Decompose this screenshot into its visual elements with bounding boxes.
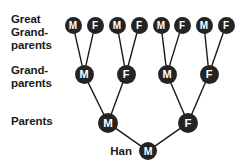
edge-gp2-to-p1 — [111, 82, 123, 114]
node-parents-1: M — [98, 113, 118, 133]
node-great-grandparents-2: F — [87, 17, 104, 34]
node-great-grandparents-3: M — [109, 17, 126, 34]
node-grandparents-2: F — [117, 65, 136, 84]
node-grandparents-3: M — [158, 65, 177, 84]
edge-gg8-to-gp4 — [212, 33, 223, 66]
node-parents-2: F — [178, 113, 198, 133]
node-grandparents-4: F — [200, 65, 219, 84]
edge-gg2-to-gp1 — [86, 33, 93, 65]
edge-gg7-to-gp4 — [205, 33, 208, 65]
node-great-grandparents-5: M — [153, 17, 170, 34]
node-great-grandparents-1: M — [65, 17, 82, 34]
node-great-grandparents-8: F — [218, 17, 235, 34]
node-great-grandparents-7: M — [196, 17, 213, 34]
node-grandparents-1: M — [75, 65, 94, 84]
row-label-great-grandparents: Great Grand- parents — [11, 13, 52, 53]
node-great-grandparents-6: F — [174, 17, 191, 34]
edge-p2-to-c1 — [155, 128, 180, 146]
edge-gg1-to-gp1 — [75, 33, 82, 65]
edge-gg3-to-gp2 — [118, 33, 124, 65]
edge-gp1-to-p1 — [88, 82, 104, 114]
edge-gp4-to-p2 — [192, 82, 206, 114]
edge-gg4-to-gp2 — [128, 33, 137, 66]
child-name-label: Han — [79, 142, 132, 160]
row-label-grandparents: Grand- parents — [11, 64, 52, 90]
node-great-grandparents-4: F — [131, 17, 148, 34]
edge-gp3-to-p2 — [171, 82, 185, 114]
pedigree-diagram: Great Grand- parents Grand- parents Pare… — [0, 0, 238, 168]
row-label-parents: Parents — [11, 115, 53, 128]
edge-gg6-to-gp3 — [170, 33, 180, 66]
node-child-1: M — [139, 142, 157, 160]
edge-gg5-to-gp3 — [162, 33, 166, 65]
